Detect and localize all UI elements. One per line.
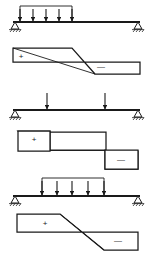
positive-sign-label: + [32, 135, 37, 144]
positive-sign-label: + [43, 219, 48, 228]
left-support-pin [9, 110, 21, 120]
right-support-roller [132, 196, 144, 206]
case-1-distributed-load [20, 6, 72, 22]
negative-sign-label: — [117, 155, 125, 164]
case-2-shear-diagram: + — [18, 131, 138, 169]
left-support-pin [9, 196, 21, 206]
shear-area-outline [13, 48, 140, 74]
figure-canvas: + — [0, 0, 150, 262]
right-support-roller [132, 22, 144, 32]
left-support-pin [9, 22, 21, 32]
case-2-point-loads [47, 93, 105, 109]
case-3-shear-diagram: + — [17, 214, 138, 250]
case-2-group: + — [9, 93, 144, 169]
negative-sign-label: — [114, 236, 122, 245]
beam-shear-diagram-figure: + — [0, 0, 150, 262]
case-3-group: + — [9, 178, 144, 250]
positive-sign-label: + [19, 52, 24, 61]
right-support-roller [132, 110, 144, 120]
case-1-shear-diagram: + — [13, 48, 140, 74]
case-1-group: + — [9, 6, 144, 74]
negative-sign-label: — [97, 62, 105, 71]
case-3-distributed-load [42, 178, 104, 196]
